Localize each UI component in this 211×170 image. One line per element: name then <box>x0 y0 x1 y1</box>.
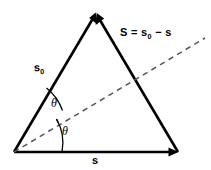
angle-arc-lower-tick <box>57 119 59 123</box>
label-S-expression-suffix: − s <box>152 26 172 38</box>
label-theta-upper: θ <box>51 97 57 109</box>
label-s0: s0 <box>34 62 45 76</box>
vector-triangle-svg <box>0 0 211 170</box>
vector-s0-edge <box>14 13 98 153</box>
dashed-bisector-line <box>14 38 205 152</box>
label-theta-lower: θ <box>62 125 68 137</box>
vector-diagram-figure: s0 S = s0 − s s θ θ <box>0 0 211 170</box>
label-S-expression: S = s0 − s <box>120 27 172 40</box>
label-s0-subscript: 0 <box>40 67 44 76</box>
label-S-expression-prefix: S = s <box>120 26 148 38</box>
label-s-bottom: s <box>92 155 98 166</box>
vector-s0-shaft <box>14 19 93 152</box>
